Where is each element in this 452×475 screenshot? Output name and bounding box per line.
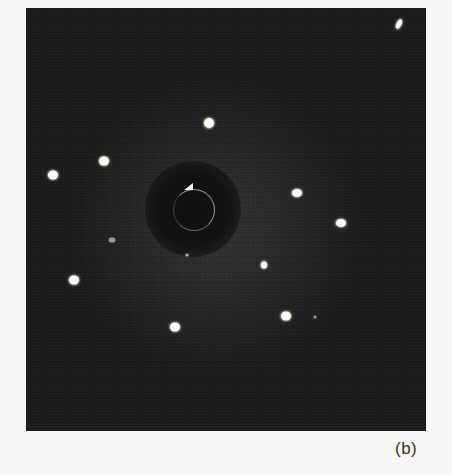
panel-label: (b) (395, 439, 417, 459)
diffraction-spot (292, 189, 302, 197)
diffraction-spot (204, 118, 214, 128)
diffraction-spot (185, 254, 189, 257)
diffraction-spot (336, 219, 346, 227)
diffraction-spot (99, 157, 109, 166)
diffraction-pattern-image (26, 8, 426, 431)
diffraction-spot (69, 276, 79, 285)
diffraction-spot (170, 323, 180, 332)
diffraction-spot (109, 238, 116, 243)
diffraction-spot (261, 262, 267, 269)
diffraction-spot (281, 312, 291, 321)
beam-stop-icon (184, 183, 193, 190)
central-ring (173, 189, 215, 231)
diffraction-spot (48, 171, 58, 180)
diffraction-spot (314, 316, 317, 319)
